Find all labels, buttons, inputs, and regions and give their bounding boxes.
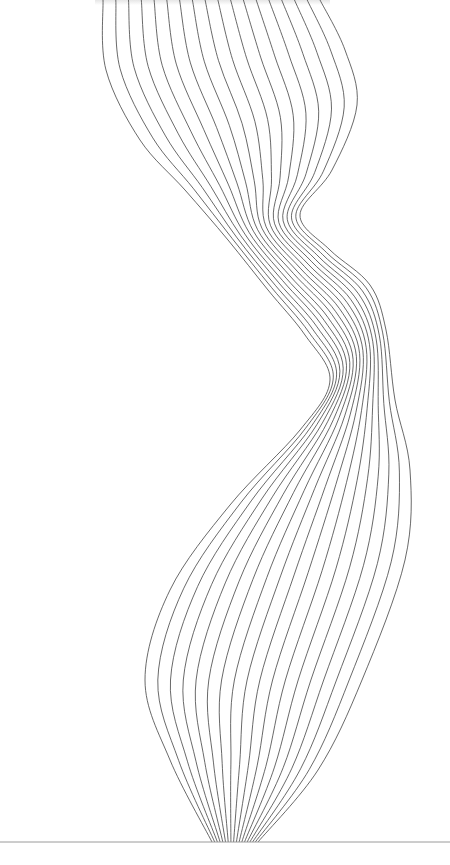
wave-line bbox=[218, 0, 360, 842]
wave-line bbox=[180, 0, 350, 842]
wave-line bbox=[253, 0, 389, 842]
wave-lines-group bbox=[102, 0, 411, 842]
wave-line bbox=[116, 0, 334, 842]
wave-line bbox=[141, 0, 340, 842]
ribbon-line-art bbox=[0, 0, 450, 865]
wave-line bbox=[205, 0, 357, 842]
wave-line bbox=[231, 0, 364, 842]
wave-line bbox=[129, 0, 337, 842]
